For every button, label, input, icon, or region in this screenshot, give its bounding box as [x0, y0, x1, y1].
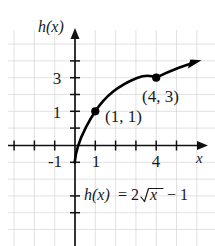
- data-point-4-3: [152, 74, 160, 82]
- x-tick-label-1: 1: [92, 152, 101, 171]
- equation-radicand: x: [149, 186, 157, 203]
- y-tick-label-1: 1: [53, 103, 62, 122]
- equation-lhs: h(x): [84, 186, 110, 204]
- equation-equals: =: [118, 186, 127, 203]
- data-point-1-1: [91, 107, 99, 115]
- x-axis-label: x: [195, 150, 203, 166]
- point-label-1-1: (1, 1): [105, 107, 142, 126]
- equation-coefficient: 2: [131, 186, 139, 203]
- figure-root: 17.: [0, 0, 215, 246]
- point-label-4-3: (4, 3): [142, 87, 179, 106]
- y-tick-label-3: 3: [53, 69, 62, 88]
- x-tick-label-neg1: -1: [48, 152, 62, 171]
- coordinate-plane-graph: h(x) x 3 1 -1 1 4 (1, 1) (4, 3) h(x) = 2…: [0, 0, 215, 246]
- equation-group: h(x) = 2 x − 1: [84, 186, 188, 204]
- y-axis-label: h(x): [38, 18, 64, 36]
- x-tick-label-4: 4: [152, 152, 161, 171]
- equation-constant: − 1: [167, 186, 188, 203]
